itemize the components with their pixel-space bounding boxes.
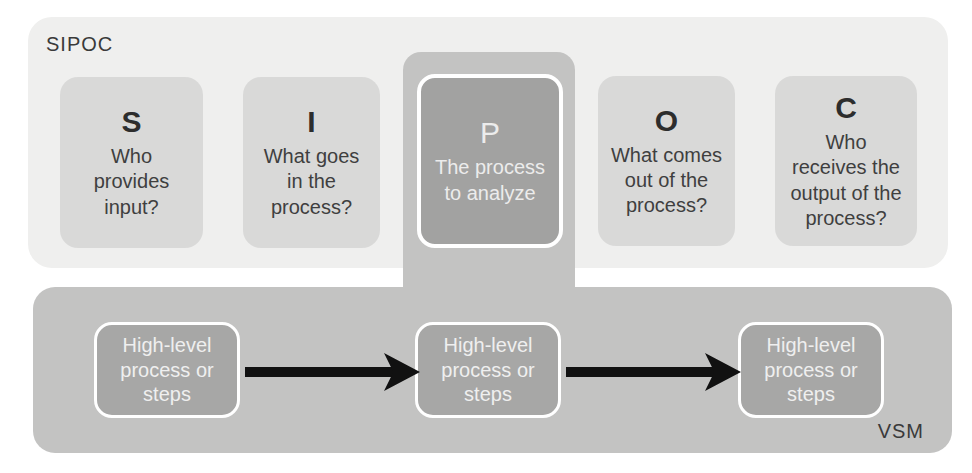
sipoc-box-letter: C [835,91,857,124]
vsm-step-box: High-level process or steps [94,322,240,418]
sipoc-box-letter: I [307,105,315,138]
vsm-step-text-line: process or [441,358,534,382]
sipoc-box-customers: C Who receives the output of the process… [775,76,917,246]
sipoc-box-suppliers: S Who provides input? [60,77,203,248]
sipoc-box-text-line: input? [104,195,159,220]
vsm-step-text-line: High-level [123,333,212,357]
sipoc-box-text-line: process? [626,193,707,218]
sipoc-box-outputs: O What comes out of the process? [598,76,735,246]
arrow-shaft [566,367,715,377]
vsm-step-box: High-level process or steps [738,322,884,418]
sipoc-box-letter: P [480,116,500,149]
sipoc-box-letter: O [655,104,678,137]
flow-arrow [566,352,741,392]
sipoc-box-process: P The process to analyze [417,74,563,248]
sipoc-box-text-line: What goes [264,144,360,169]
sipoc-box-text-line: Who [111,144,152,169]
sipoc-box-text-line: What comes [611,143,722,168]
sipoc-box-text-line: process? [805,206,886,231]
vsm-step-text-line: process or [120,358,213,382]
vsm-step-text-line: steps [143,382,191,406]
sipoc-box-text-line: output of the [790,181,901,206]
vsm-step-text-line: steps [787,382,835,406]
sipoc-title: SIPOC [46,33,113,56]
sipoc-box-text-line: receives the [792,155,900,180]
sipoc-box-text-line: in the [287,169,336,194]
arrow-shaft [245,367,394,377]
vsm-step-text-line: process or [764,358,857,382]
sipoc-box-text-line: Who [825,130,866,155]
vsm-step-text-line: High-level [444,333,533,357]
vsm-step-text-line: High-level [767,333,856,357]
sipoc-box-text-line: process? [271,195,352,220]
vsm-step-box: High-level process or steps [415,322,561,418]
sipoc-box-text-line: The process [435,155,545,180]
sipoc-vsm-diagram: SIPOC VSM S Who provides input? I What g… [0,0,972,473]
sipoc-box-inputs: I What goes in the process? [243,77,380,248]
sipoc-box-text-line: out of the [625,168,708,193]
sipoc-box-letter: S [121,105,141,138]
sipoc-box-text-line: to analyze [444,181,535,206]
flow-arrow [245,352,420,392]
vsm-step-text-line: steps [464,382,512,406]
sipoc-box-text-line: provides [94,169,170,194]
vsm-title: VSM [878,420,924,443]
